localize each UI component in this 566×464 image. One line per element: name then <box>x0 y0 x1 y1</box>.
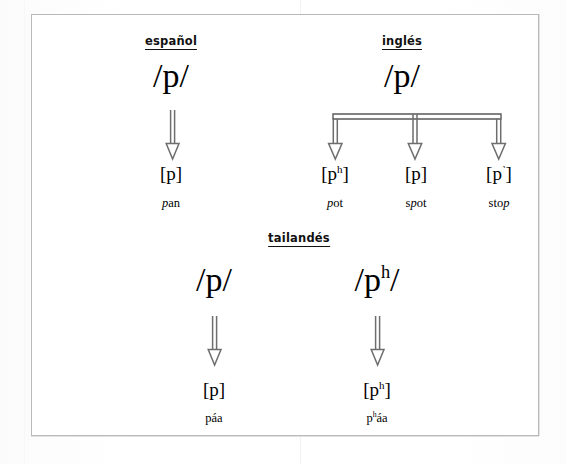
allophone-thai-1: [ph] <box>363 380 391 399</box>
allophone-spanish-0: [p] <box>160 164 182 183</box>
arrow-english-branching <box>328 111 506 163</box>
figure-frame-box: español /p/ [p] pan inglés /p/ [ph] [ <box>31 14 539 436</box>
allophone-english-2-symbol: p <box>492 163 502 184</box>
allophone-thai-0-symbol: p <box>209 379 219 400</box>
phoneme-thai-1: /ph/ <box>354 263 399 297</box>
phoneme-thai-1-symbol: p <box>364 261 381 298</box>
example-thai-0: páa <box>205 412 222 425</box>
allophone-english-1: [p] <box>405 164 427 183</box>
phoneme-thai-0: /p/ <box>196 263 232 297</box>
example-thai-1: pháa <box>366 412 387 425</box>
figure-page: español /p/ [p] pan inglés /p/ [ph] [ <box>0 0 566 464</box>
heading-thai: tailandés <box>268 231 330 247</box>
allophone-thai-0: [p] <box>203 380 225 399</box>
allophone-english-2: [p˺] <box>486 164 512 183</box>
example-spanish-0-rest: an <box>168 196 180 210</box>
allophone-english-1-symbol: p <box>411 163 421 184</box>
example-english-2: stop <box>489 197 510 210</box>
example-thai-0-pre: páa <box>205 411 222 425</box>
allophone-english-0-symbol: p <box>327 163 337 184</box>
heading-english: inglés <box>382 34 422 50</box>
example-english-0-post: ot <box>333 196 343 210</box>
example-thai-1-post: áa <box>377 411 388 425</box>
example-spanish-0: pan <box>162 197 180 210</box>
phoneme-thai-0-symbol: p <box>206 261 223 298</box>
allophone-spanish-0-symbol: p <box>166 163 176 184</box>
allophone-english-0-close: ] <box>343 163 349 184</box>
arrow-thai-1 <box>370 315 386 367</box>
example-english-2-italic: p <box>503 196 509 210</box>
phoneme-spanish-close: / <box>180 57 189 94</box>
arrow-thai-0 <box>207 315 223 367</box>
allophone-spanish-0-close: ] <box>176 163 182 184</box>
example-english-0: pot <box>327 197 343 210</box>
scan-artifact-line-left <box>24 0 25 464</box>
allophone-thai-0-close: ] <box>219 379 225 400</box>
allophone-english-0: [ph] <box>321 164 349 183</box>
example-english-2-pre: sto <box>489 196 504 210</box>
phoneme-spanish: /p/ <box>153 59 189 93</box>
phoneme-thai-1-sup: h <box>381 262 390 282</box>
arrow-spanish-to-allophone <box>165 109 181 161</box>
example-english-1: spot <box>406 197 427 210</box>
phoneme-spanish-symbol: p <box>163 57 180 94</box>
heading-spanish: español <box>145 34 197 50</box>
allophone-thai-1-close: ] <box>385 379 391 400</box>
phoneme-thai-0-close: / <box>223 261 232 298</box>
phoneme-thai-1-close: / <box>390 261 399 298</box>
example-english-1-post: ot <box>417 196 427 210</box>
allophone-english-1-close: ] <box>421 163 427 184</box>
allophone-english-2-close: ] <box>506 163 512 184</box>
phoneme-english: /p/ <box>384 59 420 93</box>
allophone-thai-1-symbol: p <box>369 379 379 400</box>
phoneme-english-close: / <box>411 57 420 94</box>
phoneme-english-symbol: p <box>394 57 411 94</box>
